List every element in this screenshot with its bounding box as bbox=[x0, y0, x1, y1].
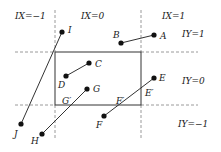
point-E bbox=[151, 75, 156, 80]
region-label-0: IX=−1 bbox=[14, 11, 46, 21]
label-D: D bbox=[57, 80, 65, 90]
line-segments bbox=[21, 32, 154, 134]
point-B bbox=[118, 40, 123, 45]
clipping-diagram: ABCDEFGHIJ IX=−1IX=0IX=1IY=1IY=0IY=−1 E′… bbox=[0, 0, 221, 152]
point-J bbox=[18, 121, 23, 126]
intersection-label-2: G′ bbox=[62, 96, 71, 106]
intersection-labels: E′F′G′ bbox=[62, 88, 154, 106]
region-code-labels: IX=−1IX=0IX=1IY=1IY=0IY=−1 bbox=[14, 11, 208, 129]
region-label-1: IX=0 bbox=[80, 11, 105, 21]
label-A: A bbox=[159, 31, 167, 41]
label-B: B bbox=[112, 30, 120, 40]
segment-IJ bbox=[21, 32, 62, 124]
label-C: C bbox=[95, 59, 102, 69]
intersection-label-1: F′ bbox=[115, 96, 124, 106]
segment-CD bbox=[66, 63, 89, 76]
region-label-5: IY=−1 bbox=[177, 119, 208, 129]
point-H bbox=[39, 131, 44, 136]
point-I bbox=[59, 29, 64, 34]
label-I: I bbox=[67, 25, 72, 35]
point-F bbox=[101, 113, 106, 118]
label-G: G bbox=[93, 84, 100, 94]
segment-AB bbox=[121, 35, 154, 43]
region-label-3: IY=1 bbox=[181, 29, 205, 39]
region-label-2: IX=1 bbox=[161, 11, 185, 21]
point-G bbox=[84, 86, 89, 91]
point-C bbox=[86, 60, 91, 65]
label-H: H bbox=[30, 136, 39, 146]
label-J: J bbox=[12, 129, 19, 139]
label-F: F bbox=[95, 120, 103, 130]
diagram-svg: ABCDEFGHIJ IX=−1IX=0IX=1IY=1IY=0IY=−1 E′… bbox=[0, 0, 221, 152]
intersection-label-0: E′ bbox=[144, 88, 154, 98]
point-A bbox=[151, 32, 156, 37]
label-E: E bbox=[158, 73, 166, 83]
region-label-4: IY=0 bbox=[181, 76, 205, 86]
point-D bbox=[63, 73, 68, 78]
